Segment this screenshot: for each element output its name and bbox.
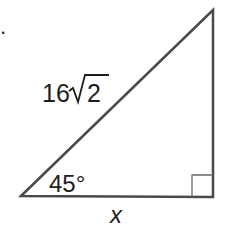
problem-marker: . — [0, 14, 6, 39]
angle-label: 45° — [49, 170, 85, 197]
base-label: x — [109, 201, 123, 228]
hypotenuse-coefficient: 16 — [42, 79, 70, 107]
right-angle-marker — [192, 175, 213, 197]
triangle-diagram: . 16 2 45° x — [0, 0, 238, 233]
hypotenuse-radicand: 2 — [87, 79, 101, 107]
